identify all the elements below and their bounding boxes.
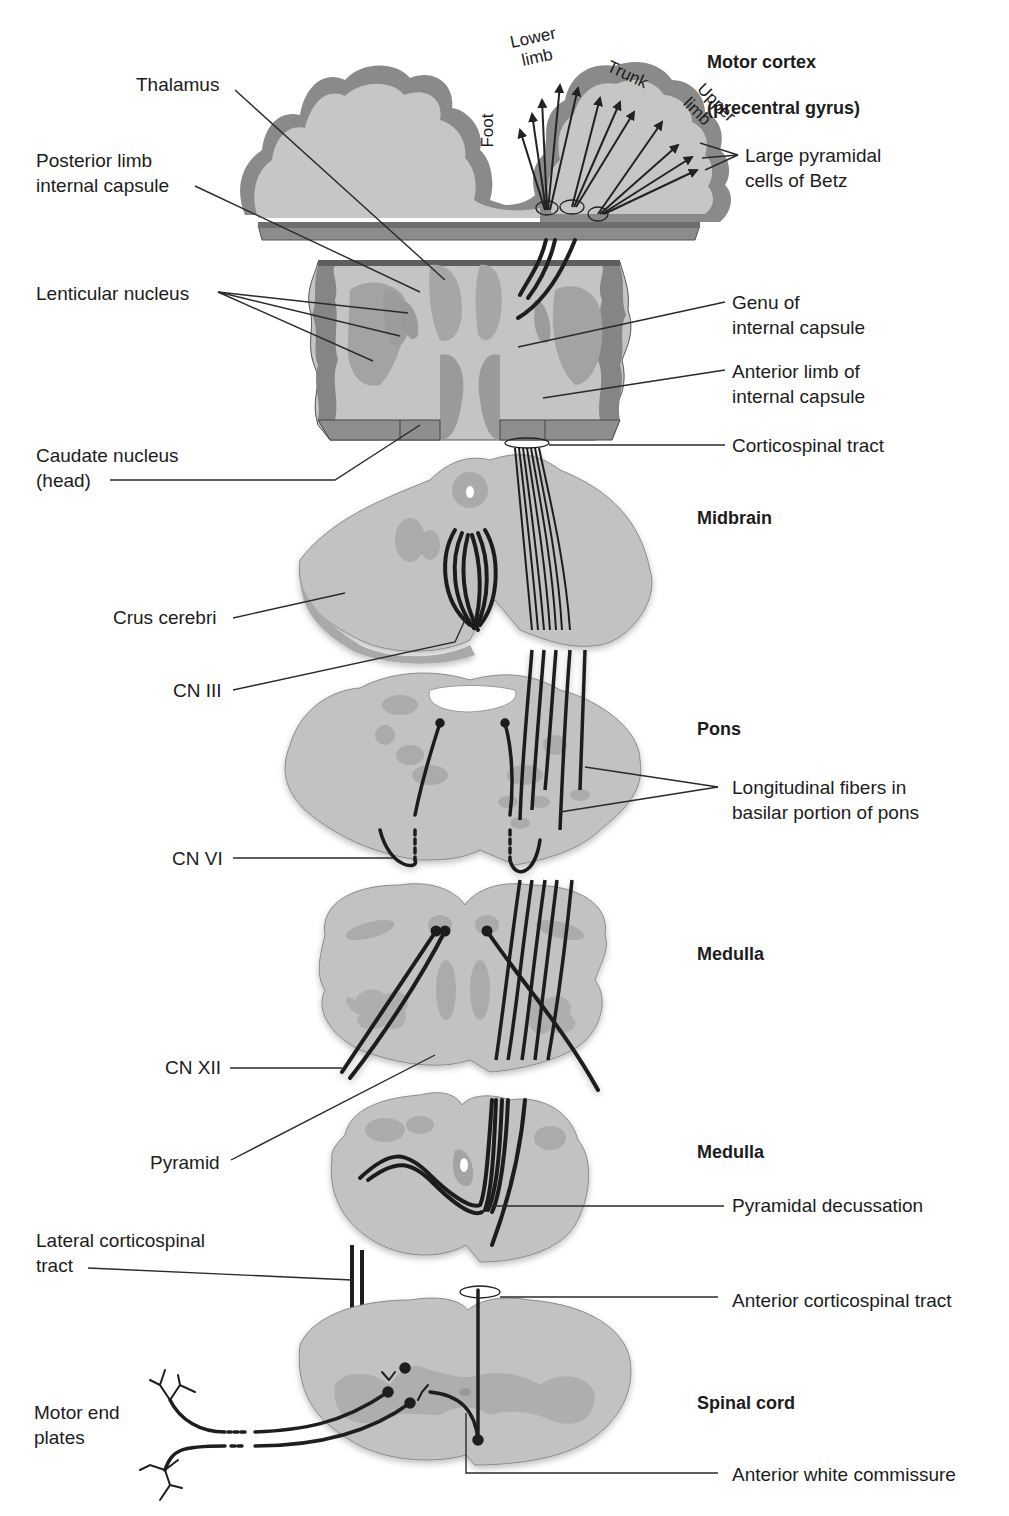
label-lateral-corticospinal-tract: Lateral corticospinal tract: [36, 1228, 205, 1278]
label-pyramidal-decussation: Pyramidal decussation: [732, 1193, 923, 1218]
upper-medulla-section: [319, 880, 606, 1090]
label-corticospinal-tract: Corticospinal tract: [732, 433, 884, 458]
level-title-motor-cortex: Motor cortex (precentral gyrus): [697, 28, 860, 120]
label-anterior-white-commissure: Anterior white commissure: [732, 1462, 956, 1487]
label-anterior-corticospinal-tract: Anterior corticospinal tract: [732, 1288, 952, 1313]
motor-cortex-subtitle: (precentral gyrus): [707, 98, 860, 118]
pons-section: [285, 650, 641, 872]
internal-capsule-section: [309, 240, 631, 448]
label-pyramid: Pyramid: [150, 1150, 220, 1175]
level-title-medulla-lower: Medulla: [697, 1140, 764, 1165]
motor-cortex-title: Motor cortex: [707, 52, 816, 72]
label-caudate-nucleus: Caudate nucleus (head): [36, 443, 179, 493]
label-posterior-limb-internal-capsule: Posterior limb internal capsule: [36, 148, 169, 198]
level-title-pons: Pons: [697, 717, 741, 742]
label-thalamus: Thalamus: [136, 72, 219, 97]
label-genu-internal-capsule: Genu of internal capsule: [732, 290, 865, 340]
label-longitudinal-fibers-pons: Longitudinal fibers in basilar portion o…: [732, 775, 919, 825]
label-motor-end-plates: Motor end plates: [34, 1400, 120, 1450]
label-foot: Foot: [475, 113, 500, 147]
level-title-midbrain: Midbrain: [697, 506, 772, 531]
level-title-spinal-cord: Spinal cord: [697, 1391, 795, 1416]
label-lenticular-nucleus: Lenticular nucleus: [36, 281, 189, 306]
lower-medulla-section: [331, 1093, 588, 1262]
corticospinal-pathway-diagram: Thalamus Posterior limb internal capsule…: [0, 0, 1009, 1516]
spinal-cord-section: [299, 1298, 631, 1465]
label-crus-cerebri: Crus cerebri: [113, 605, 216, 630]
label-cn-vi: CN VI: [172, 846, 223, 871]
midbrain-section: [299, 448, 652, 664]
label-anterior-limb-internal-capsule: Anterior limb of internal capsule: [732, 359, 865, 409]
motor-cortex-section: [240, 62, 731, 240]
label-cn-xii: CN XII: [165, 1055, 221, 1080]
level-title-medulla-upper: Medulla: [697, 942, 764, 967]
label-cn-iii: CN III: [173, 678, 222, 703]
label-betz-cells: Large pyramidal cells of Betz: [745, 143, 881, 193]
